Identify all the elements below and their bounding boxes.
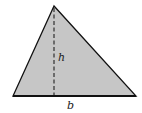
triangle-shape [13, 6, 136, 96]
base-label: b [67, 99, 74, 112]
triangle-diagram: h b [0, 0, 142, 113]
height-label: h [58, 51, 65, 64]
